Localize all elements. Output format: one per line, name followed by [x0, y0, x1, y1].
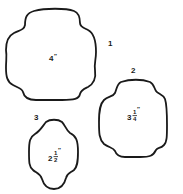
- shape-1-size-label: 4″: [49, 53, 57, 63]
- pattern-diagram: 4″ 1 3 1 4 ″ 2 2 1 2 ″ 3: [0, 0, 183, 194]
- shape-2: 3 1 4 ″ 2: [99, 66, 167, 157]
- shape-3-unit: ″: [58, 147, 61, 153]
- shape-2-fraction-denominator: 4: [133, 116, 137, 122]
- shape-3: 2 1 2 ″ 3: [29, 113, 78, 189]
- shape-3-number-label: 3: [34, 113, 39, 122]
- shape-1: 4″ 1: [6, 9, 113, 100]
- shape-3-size-label: 2: [48, 154, 53, 163]
- shape-1-number-label: 1: [108, 39, 113, 48]
- shape-2-size-label: 3: [127, 113, 132, 122]
- shape-2-unit: ″: [137, 106, 140, 112]
- shape-3-fraction-denominator: 2: [54, 157, 58, 163]
- shape-2-number-label: 2: [131, 66, 136, 75]
